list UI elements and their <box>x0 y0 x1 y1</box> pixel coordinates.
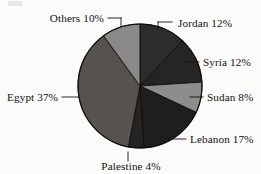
slice-label-egypt: Egypt 37% <box>7 91 58 103</box>
pie-chart-svg: Jordan 12%Syria 12%Sudan 8%Lebanon 17%Pa… <box>0 0 261 174</box>
pie-chart-figure: Jordan 12%Syria 12%Sudan 8%Lebanon 17%Pa… <box>0 0 261 174</box>
slice-label-jordan: Jordan 12% <box>178 17 232 29</box>
slice-label-sudan: Sudan 8% <box>207 91 253 103</box>
slice-label-others: Others 10% <box>50 12 104 24</box>
pie-wedges <box>78 24 202 148</box>
slice-label-palestine: Palestine 4% <box>101 160 160 172</box>
slice-label-lebanon: Lebanon 17% <box>190 133 254 145</box>
slice-label-syria: Syria 12% <box>203 56 251 68</box>
